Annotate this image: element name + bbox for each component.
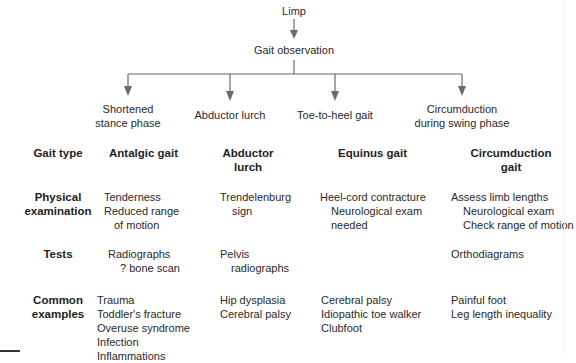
gait-type-circumduction: Circumduction gait bbox=[466, 146, 556, 174]
arrowhead-icon bbox=[124, 86, 132, 96]
tests-circumduction: Orthodiagrams bbox=[451, 247, 524, 261]
arrowhead-icon bbox=[290, 30, 298, 39]
physical-exam-antalgic: Tenderness Reduced range of motion bbox=[104, 190, 179, 232]
cell-line: Check range of motion bbox=[451, 218, 574, 232]
branch-shortened-stance: Shortened stance phase bbox=[78, 102, 178, 130]
cell-line: Abductor bbox=[216, 146, 280, 160]
branch-toe-to-heel: Toe-to-heel gait bbox=[285, 108, 385, 122]
cell-line: lurch bbox=[216, 160, 280, 174]
cell-line: Neurological exam bbox=[451, 204, 574, 218]
cell-line: Radiographs bbox=[108, 247, 180, 261]
cell-line: Circumduction bbox=[466, 146, 556, 160]
cell-line: Antalgic gait bbox=[109, 146, 178, 160]
branch-abductor-lurch: Abductor lurch bbox=[180, 108, 280, 122]
cell-line: Infection bbox=[97, 335, 190, 349]
branch-label-line: stance phase bbox=[78, 116, 178, 130]
edge-border bbox=[564, 0, 565, 353]
cell-line: sign bbox=[220, 204, 291, 218]
node-gait-observation: Gait observation bbox=[234, 43, 354, 57]
cell-line: Equinus gait bbox=[338, 146, 407, 160]
label-line: examination bbox=[10, 204, 106, 218]
branch-label-line: during swing phase bbox=[407, 116, 517, 130]
tests-antalgic: Radiographs ? bone scan bbox=[108, 247, 180, 275]
arrowhead-icon bbox=[331, 91, 339, 101]
cell-line: Overuse syndrome bbox=[97, 321, 190, 335]
arrowhead-icon bbox=[458, 86, 466, 96]
cell-line: Hip dysplasia bbox=[220, 293, 291, 307]
physical-exam-abductor: Trendelenburg sign bbox=[220, 190, 291, 218]
branch-label-line: Toe-to-heel gait bbox=[285, 108, 385, 122]
cell-line: Reduced range bbox=[104, 204, 179, 218]
gait-type-antalgic: Antalgic gait bbox=[109, 146, 178, 160]
cell-line: radiographs bbox=[220, 261, 289, 275]
cell-line: ? bone scan bbox=[108, 261, 180, 275]
examples-abductor: Hip dysplasia Cerebral palsy bbox=[220, 293, 291, 321]
branch-label-line: Shortened bbox=[78, 102, 178, 116]
row-label-physical-examination: Physical examination bbox=[10, 190, 106, 218]
cell-line: Trauma bbox=[97, 293, 190, 307]
cell-line: Heel-cord contracture bbox=[320, 190, 426, 204]
cell-line: Toddler's fracture bbox=[97, 307, 190, 321]
cell-line: Cerebral palsy bbox=[220, 307, 291, 321]
physical-exam-circumduction: Assess limb lengths Neurological exam Ch… bbox=[451, 190, 574, 232]
cell-line: Neurological exam bbox=[320, 204, 426, 218]
row-label-common-examples: Common examples bbox=[10, 293, 106, 321]
cell-line: gait bbox=[466, 160, 556, 174]
cell-line: Pelvis bbox=[220, 247, 289, 261]
cell-line: Clubfoot bbox=[321, 321, 421, 335]
examples-circumduction: Painful foot Leg length inequality bbox=[451, 293, 552, 321]
arrowhead-icon bbox=[226, 91, 234, 101]
label-line: Common bbox=[10, 293, 106, 307]
cell-line: Painful foot bbox=[451, 293, 552, 307]
cell-line: of motion bbox=[104, 218, 179, 232]
label-line: examples bbox=[10, 307, 106, 321]
row-label-gait-type: Gait type bbox=[10, 146, 106, 160]
edge-rule bbox=[0, 350, 20, 352]
branch-circumduction: Circumduction during swing phase bbox=[407, 102, 517, 130]
label-line: Physical bbox=[10, 190, 106, 204]
gait-type-abductor: Abductor lurch bbox=[216, 146, 280, 174]
row-label-tests: Tests bbox=[10, 247, 106, 261]
examples-antalgic: Trauma Toddler's fracture Overuse syndro… bbox=[97, 293, 190, 363]
physical-exam-equinus: Heel-cord contracture Neurological exam … bbox=[320, 190, 426, 232]
cell-line: Assess limb lengths bbox=[451, 190, 574, 204]
cell-line: needed bbox=[320, 218, 426, 232]
cell-line: Tenderness bbox=[104, 190, 179, 204]
branch-label-line: Abductor lurch bbox=[180, 108, 280, 122]
cell-line: Idiopathic toe walker bbox=[321, 307, 421, 321]
cell-line: Inflammations bbox=[97, 349, 190, 363]
tests-abductor: Pelvis radiographs bbox=[220, 247, 289, 275]
node-limp: Limp bbox=[264, 4, 324, 18]
branch-label-line: Circumduction bbox=[407, 102, 517, 116]
examples-equinus: Cerebral palsy Idiopathic toe walker Clu… bbox=[321, 293, 421, 335]
cell-line: Leg length inequality bbox=[451, 307, 552, 321]
cell-line: Orthodiagrams bbox=[451, 247, 524, 261]
gait-type-equinus: Equinus gait bbox=[338, 146, 407, 160]
cell-line: Cerebral palsy bbox=[321, 293, 421, 307]
cell-line: Trendelenburg bbox=[220, 190, 291, 204]
